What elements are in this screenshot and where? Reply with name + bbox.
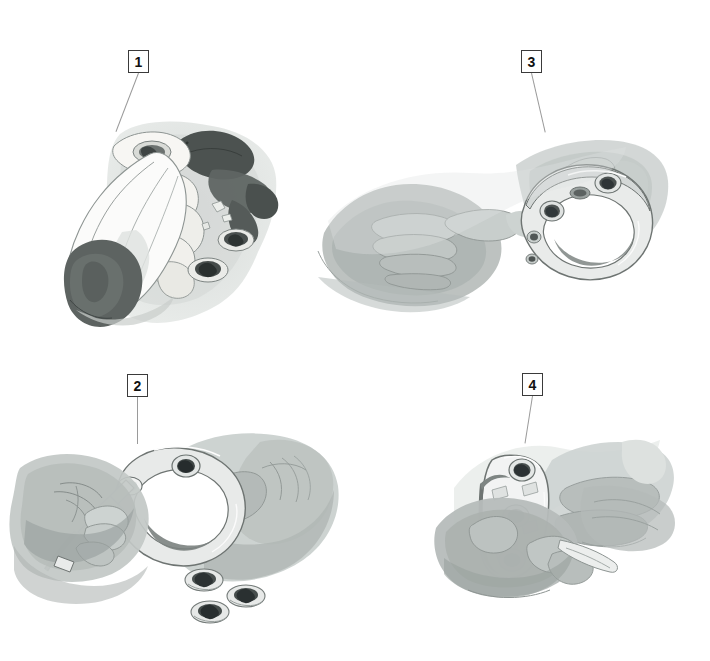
callout-number-4[interactable]: 4 [522, 373, 543, 396]
panel-illustration-2 [14, 428, 344, 628]
callout-number-3[interactable]: 3 [521, 50, 542, 73]
loose-screw-2 [227, 585, 265, 607]
loose-screw-1 [185, 569, 223, 591]
leader-line-2 [137, 397, 138, 444]
illustration-canvas-4 [434, 432, 674, 624]
illustration-canvas-3 [318, 125, 670, 325]
panel-illustration-3 [318, 125, 670, 325]
left-hand-driver [9, 454, 148, 604]
illustration-canvas-1 [62, 112, 292, 337]
callout-number-1[interactable]: 1 [128, 50, 149, 73]
panel-illustration-4 [434, 432, 674, 624]
callout-number-2[interactable]: 2 [127, 374, 148, 397]
panel-illustration-1 [62, 112, 292, 337]
figure-root: 1 3 2 4 [0, 0, 710, 661]
leader-line-3 [531, 73, 546, 133]
loose-screw-3 [191, 601, 229, 623]
illustration-canvas-2 [14, 428, 344, 628]
